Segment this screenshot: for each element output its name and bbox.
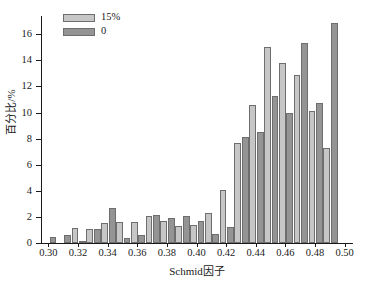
bar — [116, 222, 123, 243]
y-axis-tick — [36, 34, 41, 35]
y-axis-tick-label: 16 — [0, 29, 32, 40]
bar — [264, 47, 271, 243]
legend-item-series-0: 0 — [63, 26, 120, 37]
bar — [50, 237, 57, 243]
bar — [331, 23, 338, 243]
y-axis-tick — [36, 113, 41, 114]
legend-label-0: 0 — [101, 26, 106, 37]
bar — [220, 190, 227, 243]
x-axis-tick-label: 0.30 — [39, 248, 57, 259]
bar — [94, 229, 101, 243]
x-axis-title: Schmid因子 — [41, 262, 353, 278]
bar — [86, 229, 93, 243]
y-axis-tick — [36, 243, 41, 244]
bar — [242, 137, 249, 243]
bar — [272, 96, 279, 243]
bar — [131, 222, 138, 243]
x-axis-tick-label: 0.36 — [128, 248, 146, 259]
bar — [160, 221, 167, 243]
bar — [64, 235, 71, 243]
bar — [198, 221, 205, 243]
schmid-factor-histogram: 0246810121416 0.300.320.340.360.380.400.… — [0, 0, 371, 285]
bar — [109, 208, 116, 243]
bar — [294, 75, 301, 243]
bar — [205, 213, 212, 243]
bar — [146, 216, 153, 243]
y-axis-tick-label: 6 — [0, 159, 32, 170]
legend-swatch-icon-0 — [63, 28, 95, 36]
bar — [316, 103, 323, 243]
bar — [175, 226, 182, 243]
bar — [257, 132, 264, 243]
x-axis-tick-label: 0.46 — [276, 248, 294, 259]
legend-swatch-icon-15 — [63, 14, 95, 22]
x-axis-tick-label: 0.32 — [69, 248, 87, 259]
x-axis-tick-label: 0.42 — [217, 248, 235, 259]
y-axis-tick — [36, 86, 41, 87]
bar — [279, 63, 286, 243]
bar — [79, 241, 86, 243]
y-axis-tick — [36, 191, 41, 192]
bar — [183, 216, 190, 243]
bar — [190, 225, 197, 243]
bar — [309, 111, 316, 243]
y-axis-title: 百分比/% — [2, 72, 18, 152]
y-axis-tick — [36, 139, 41, 140]
y-axis-line — [41, 16, 42, 244]
bar — [323, 148, 330, 243]
x-axis-tick-label: 0.40 — [187, 248, 205, 259]
bar — [124, 238, 131, 243]
bar — [168, 218, 175, 243]
y-axis-tick-label: 4 — [0, 186, 32, 197]
bar — [234, 143, 241, 243]
bar — [72, 228, 79, 243]
bar — [249, 105, 256, 243]
bar — [227, 227, 234, 243]
legend-label-15: 15% — [101, 12, 120, 23]
y-axis-tick — [36, 165, 41, 166]
bar — [212, 234, 219, 243]
chart-legend: 15% 0 — [63, 12, 120, 40]
y-axis-tick — [36, 217, 41, 218]
x-axis-tick-label: 0.50 — [335, 248, 353, 259]
bar — [153, 215, 160, 243]
x-axis-tick-label: 0.34 — [98, 248, 116, 259]
y-axis-tick-label: 14 — [0, 55, 32, 66]
bar — [138, 235, 145, 243]
y-axis-tick — [36, 60, 41, 61]
x-axis-tick-label: 0.38 — [158, 248, 176, 259]
y-axis-tick-label: 0 — [0, 238, 32, 249]
x-axis-tick-label: 0.44 — [247, 248, 265, 259]
legend-item-series-15: 15% — [63, 12, 120, 23]
bar — [286, 113, 293, 243]
y-axis-tick-label: 2 — [0, 212, 32, 223]
bar — [301, 43, 308, 243]
x-axis-tick-label: 0.48 — [306, 248, 324, 259]
bar — [101, 223, 108, 243]
